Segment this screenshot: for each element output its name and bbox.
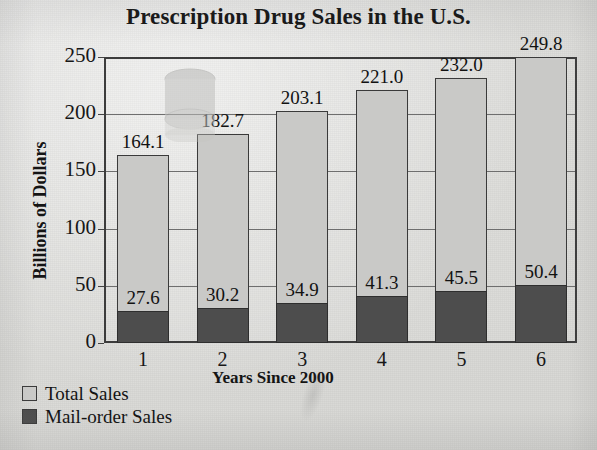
x-axis-tick-1: 1: [117, 348, 169, 371]
page-title: Prescription Drug Sales in the U.S.: [0, 4, 597, 30]
value-label-total-sales-year-4: 221.0: [351, 66, 413, 88]
bar-mail-order-sales-year-2: [197, 308, 249, 343]
gridline: [106, 114, 575, 115]
legend-swatch-icon-mail-order-sales: [22, 409, 37, 424]
chart-page: Prescription Drug Sales in the U.S. Bill…: [0, 0, 597, 450]
legend-label-total-sales: Total Sales: [45, 383, 129, 405]
bar-mail-order-sales-year-3: [276, 303, 328, 343]
y-axis-tick-150: 150: [40, 157, 96, 182]
y-axis-tick-mark: [98, 343, 104, 344]
value-label-total-sales-year-2: 182.7: [192, 110, 254, 132]
x-axis-tick-2: 2: [197, 348, 249, 371]
value-label-mail-order-sales-year-2: 30.2: [192, 284, 254, 306]
y-axis-tick-0: 0: [40, 329, 96, 354]
legend: Total Sales Mail-order Sales: [22, 382, 172, 428]
plot-area: [104, 57, 577, 343]
value-label-mail-order-sales-year-6: 50.4: [510, 261, 572, 283]
x-axis-tick-6: 6: [515, 348, 567, 371]
legend-swatch-icon-total-sales: [22, 386, 37, 401]
y-axis-tick-200: 200: [40, 100, 96, 125]
y-axis-tick-50: 50: [40, 272, 96, 297]
value-label-total-sales-year-1: 164.1: [112, 131, 174, 153]
x-axis-tick-5: 5: [435, 348, 487, 371]
legend-item-mail-order-sales: Mail-order Sales: [22, 405, 172, 428]
gridline: [106, 286, 575, 287]
value-label-mail-order-sales-year-1: 27.6: [112, 287, 174, 309]
bar-mail-order-sales-year-5: [435, 291, 487, 343]
value-label-total-sales-year-6: 249.8: [510, 33, 572, 55]
y-axis-tick-250: 250: [40, 43, 96, 68]
value-label-total-sales-year-3: 203.1: [271, 87, 333, 109]
x-axis-tick-3: 3: [276, 348, 328, 371]
bar-mail-order-sales-year-6: [515, 285, 567, 343]
legend-item-total-sales: Total Sales: [22, 382, 172, 405]
gridline: [106, 171, 575, 172]
value-label-mail-order-sales-year-4: 41.3: [351, 272, 413, 294]
value-label-mail-order-sales-year-5: 45.5: [430, 267, 492, 289]
legend-label-mail-order-sales: Mail-order Sales: [45, 406, 172, 428]
x-axis-tick-4: 4: [356, 348, 408, 371]
value-label-total-sales-year-5: 232.0: [430, 54, 492, 76]
value-label-mail-order-sales-year-3: 34.9: [271, 279, 333, 301]
gridline: [106, 229, 575, 230]
y-axis-tick-100: 100: [40, 215, 96, 240]
bar-mail-order-sales-year-4: [356, 296, 408, 343]
x-axis-title: Years Since 2000: [212, 368, 334, 388]
bar-mail-order-sales-year-1: [117, 311, 169, 343]
